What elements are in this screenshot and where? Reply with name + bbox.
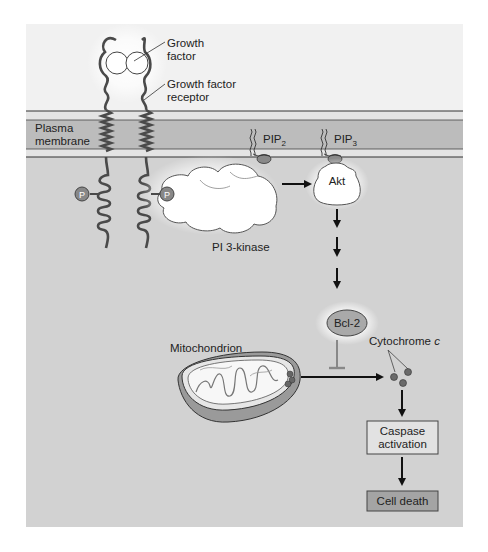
plasma-membrane [26, 111, 463, 157]
receptor-label-line2: receptor [167, 91, 209, 103]
caspase-label-line2: activation [378, 438, 427, 450]
phosphate-right-label: P [164, 190, 170, 200]
phosphate-left-label: P [79, 190, 85, 200]
growth-factor-label-line2: factor [167, 50, 196, 62]
growth-factor-label-line1: Growth [167, 37, 204, 49]
cell-death-label: Cell death [377, 495, 429, 507]
caspase-label-line1: Caspase [380, 425, 425, 437]
membrane-label-line1: Plasma [35, 122, 74, 134]
receptor-label-line1: Growth factor [167, 78, 236, 90]
pi3k-akt-pathway-diagram: Plasma membrane P P PI 3-kinase PIP2 [0, 0, 488, 552]
akt-label: Akt [329, 175, 346, 187]
pi3k-label: PI 3-kinase [212, 241, 270, 253]
cytochrome-c-label: Cytochrome c [369, 335, 440, 347]
bcl2-label: Bcl-2 [334, 317, 360, 329]
mitochondrion-label: Mitochondrion [170, 342, 242, 354]
membrane-label-line2: membrane [35, 135, 90, 147]
